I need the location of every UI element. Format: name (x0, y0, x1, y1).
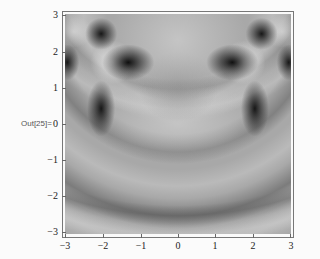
y-tick-mark (62, 15, 66, 16)
y-tick-label: 3 (46, 10, 58, 20)
y-tick-mark (62, 160, 66, 161)
y-tick-label: −1 (46, 155, 58, 165)
x-tick-label: 3 (289, 241, 294, 251)
x-tick-mark (215, 234, 216, 238)
y-tick-mark (62, 124, 66, 125)
x-tick-label: 2 (251, 241, 256, 251)
x-tick-label: 0 (176, 241, 181, 251)
y-tick-mark (62, 232, 66, 233)
x-tick-mark (178, 234, 179, 238)
y-tick-label: −2 (46, 191, 58, 201)
x-tick-mark (290, 234, 291, 238)
x-tick-label: 1 (213, 241, 218, 251)
y-tick-mark (62, 52, 66, 53)
x-tick-label: −1 (136, 241, 147, 251)
y-tick-label: 0 (46, 119, 58, 129)
y-tick-label: 1 (46, 83, 58, 93)
x-tick-mark (141, 234, 142, 238)
dark-spots (65, 14, 291, 234)
x-tick-label: −2 (98, 241, 109, 251)
y-tick-label: 2 (46, 47, 58, 57)
x-tick-label: −3 (60, 241, 71, 251)
y-tick-mark (62, 196, 66, 197)
x-tick-mark (253, 234, 254, 238)
density-plot[interactable] (65, 14, 291, 234)
y-tick-label: −3 (46, 227, 58, 237)
x-tick-mark (103, 234, 104, 238)
x-tick-mark (65, 234, 66, 238)
y-tick-mark (62, 88, 66, 89)
